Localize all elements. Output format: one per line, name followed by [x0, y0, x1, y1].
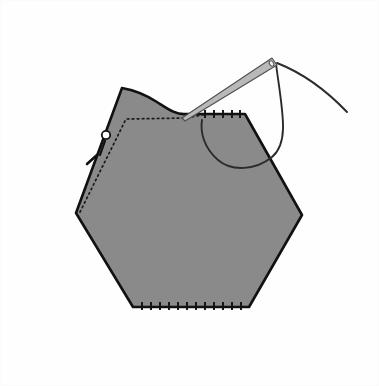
sewing-needle: [182, 58, 277, 121]
thread-tail-right: [277, 63, 347, 112]
illustration-canvas: Hexagonal panel with needle and thread f…: [0, 0, 379, 386]
hexagon-sewing-diagram: [0, 0, 379, 386]
needle-body: [182, 58, 277, 121]
eyelet-hole: [102, 131, 110, 139]
hexagonal-panel: [76, 88, 302, 307]
panel-group: [76, 88, 302, 307]
